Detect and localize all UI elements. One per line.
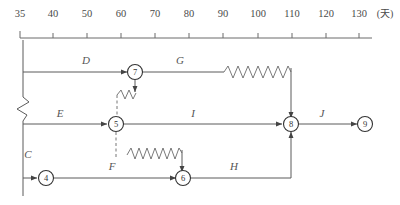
axis-tick-label-100: 100 <box>250 8 266 19</box>
axis-tick-label-70: 70 <box>150 8 161 19</box>
activity-label-J: J <box>320 107 326 119</box>
dummy-link-7-to-5 <box>117 80 136 116</box>
axis-tick-label-50: 50 <box>82 8 93 19</box>
node-8-label: 8 <box>289 119 293 129</box>
activity-row-bottom: C F H 4 6 <box>23 132 291 186</box>
axis-tick-label-35: 35 <box>15 8 26 19</box>
axis-tick-label-80: 80 <box>184 8 195 19</box>
gantt-network-diagram: 35 40 50 60 70 80 90 100 110 120 130 (天) <box>0 0 400 205</box>
activity-arrow-H <box>190 132 291 178</box>
time-axis: 35 40 50 60 70 80 90 100 110 120 130 (天) <box>15 8 394 38</box>
activity-label-D: D <box>81 54 90 66</box>
activity-label-C: C <box>24 148 32 160</box>
activity-label-I: I <box>190 107 196 119</box>
activity-label-H: H <box>229 160 239 172</box>
activity-label-E: E <box>56 107 64 119</box>
node-9-label: 9 <box>363 119 367 129</box>
float-zigzag-7-5 <box>117 90 136 99</box>
axis-tick-label-130: 130 <box>351 8 367 19</box>
float-zigzag-G <box>224 66 291 78</box>
node-5-label: 5 <box>114 119 118 129</box>
axis-tick-label-120: 120 <box>318 8 334 19</box>
activity-label-F: F <box>108 160 116 172</box>
network-diagram-canvas: 35 40 50 60 70 80 90 100 110 120 130 (天) <box>0 0 400 205</box>
axis-tick-label-60: 60 <box>116 8 127 19</box>
origin-line-break-symbol <box>17 97 29 196</box>
dummy-link-5-to-6 <box>116 132 182 172</box>
activity-row-middle: E I J 5 8 9 <box>23 107 373 132</box>
origin-vertical-line <box>17 40 29 196</box>
axis-tick-label-90: 90 <box>218 8 229 19</box>
axis-tick-label-110: 110 <box>284 8 299 19</box>
float-zigzag-5-6 <box>127 148 182 159</box>
node-6-label: 6 <box>181 173 185 183</box>
activity-label-G: G <box>176 54 184 66</box>
axis-unit-label: (天) <box>377 8 394 20</box>
node-7-label: 7 <box>133 67 137 77</box>
axis-tick-label-40: 40 <box>48 8 59 19</box>
